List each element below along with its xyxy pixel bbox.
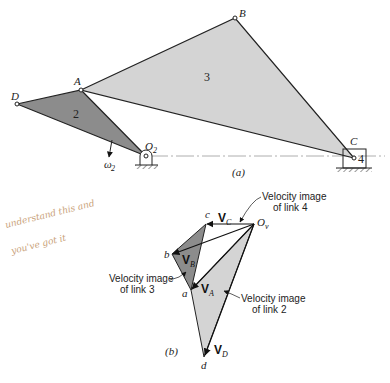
label-a-lower: a [182,287,188,299]
label-o2: O [145,140,153,152]
omega-label-sub: 2 [111,164,115,173]
label-a: A [73,75,81,87]
diagram-svg: A B C D O 2 2 3 4 ω 2 (a) O v c b a d V … [0,0,390,383]
label-c-lower: c [205,208,210,220]
label-d: D [10,90,19,102]
callout-link-2-line2: of link 2 [252,304,287,315]
omega-arrow-icon [109,140,112,157]
callout-link-4-line2: of link 4 [273,202,308,213]
callout-link-3-line2: of link 3 [120,284,155,295]
handwritten-note-line2: you've got it [9,233,67,257]
label-c: C [350,135,358,147]
vb-label: V [182,253,190,267]
va-label-sub: A [208,289,214,298]
label-b-lower: b [164,248,170,260]
vd-label: V [214,343,222,357]
velocity-diagram-figure: A B C D O 2 2 3 4 ω 2 (a) O v c b a d V … [0,0,390,383]
vd-label-sub: D [221,350,228,359]
vb-label-sub: B [190,260,195,269]
link-4-number: 4 [358,152,364,166]
label-d-lower: d [201,359,207,371]
callout-link-2-line1: Velocity image [241,293,306,304]
joint-a [79,88,83,92]
callout-link-3-line1: Velocity image [109,273,174,284]
vc-label-sub: C [226,218,232,227]
handwritten-note-line1: understand this and [4,198,96,230]
vc-label: V [218,211,226,225]
link-2-number: 2 [73,107,79,121]
link-3-number: 3 [204,70,210,84]
label-b: B [239,7,246,19]
callout-link-4-line1: Velocity image [262,191,327,202]
label-ov: O [257,216,265,228]
va-label: V [201,282,209,296]
label-ov-sub: v [265,222,269,231]
caption-b: (b) [165,345,178,358]
label-o2-sub: 2 [153,146,157,155]
joint-d [15,102,19,106]
caption-a: (a) [232,166,245,179]
joint-b [233,16,237,20]
